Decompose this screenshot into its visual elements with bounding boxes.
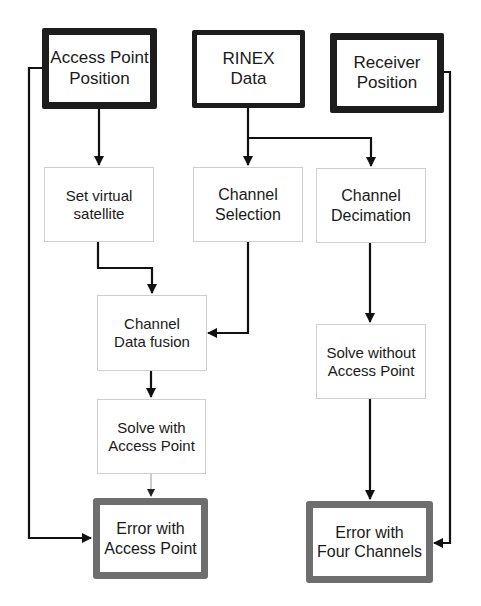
node-label: RINEX Data xyxy=(223,49,275,90)
node-label: Set virtual satellite xyxy=(66,187,133,223)
edge-receiver-to-error-four xyxy=(434,72,450,543)
node-error-with-four-channels: Error with Four Channels xyxy=(306,501,433,583)
node-rinex-data: RINEX Data xyxy=(192,30,305,108)
node-channel-data-fusion: Channel Data fusion xyxy=(97,295,207,371)
node-label: Access Point Position xyxy=(50,48,148,89)
node-channel-selection: Channel Selection xyxy=(193,167,303,242)
node-set-virtual-satellite: Set virtual satellite xyxy=(44,167,154,242)
node-access-point-position: Access Point Position xyxy=(42,28,157,109)
node-error-with-access-point: Error with Access Point xyxy=(93,498,208,579)
node-label: Channel Decimation xyxy=(331,186,411,224)
node-label: Solve with Access Point xyxy=(108,419,195,455)
flowchart-canvas: Access Point Position RINEX Data Receive… xyxy=(0,0,481,606)
edge-virtual-satellite-to-fusion xyxy=(98,241,152,293)
edge-rinex-to-decimation xyxy=(248,138,371,166)
edge-ap-to-error-ap xyxy=(29,68,91,538)
node-solve-without-access-point: Solve without Access Point xyxy=(316,324,426,399)
edge-selection-to-fusion xyxy=(208,241,248,333)
node-receiver-position: Receiver Position xyxy=(330,33,444,113)
node-label: Error with Four Channels xyxy=(317,523,422,561)
node-label: Channel Data fusion xyxy=(114,315,190,351)
node-label: Channel Selection xyxy=(215,185,281,223)
node-solve-with-access-point: Solve with Access Point xyxy=(97,399,206,474)
node-label: Error with Access Point xyxy=(104,519,196,557)
node-channel-decimation: Channel Decimation xyxy=(316,168,426,243)
node-label: Solve without Access Point xyxy=(326,344,415,380)
node-label: Receiver Position xyxy=(353,53,420,94)
